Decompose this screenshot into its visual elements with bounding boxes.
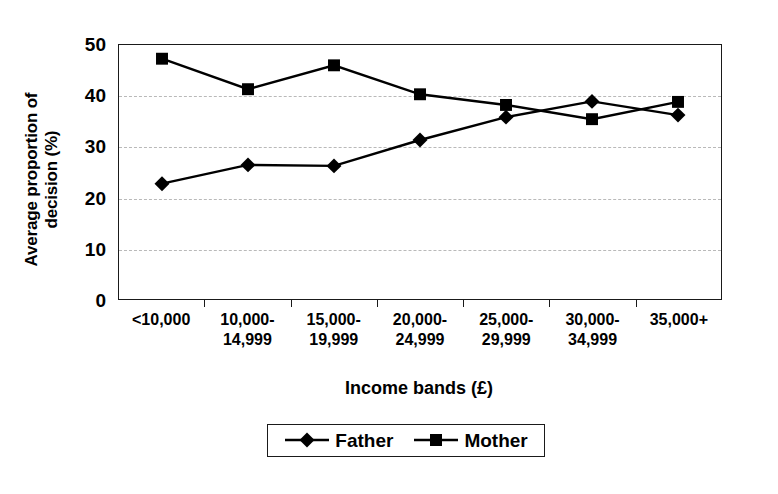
y-axis-tick-labels: 01020304050 — [62, 0, 106, 494]
y-axis-title: Average proportion of decision (%) — [22, 50, 61, 310]
data-point-marker — [413, 133, 428, 148]
data-point-marker — [241, 157, 256, 172]
legend-swatch-square-icon — [413, 430, 459, 450]
y-axis-tick-label: 20 — [68, 189, 106, 208]
y-axis-tick-label: 40 — [68, 86, 106, 105]
x-axis-title: Income bands (£) — [0, 378, 778, 399]
series-father — [155, 94, 686, 191]
chart-canvas: Average proportion of decision (%) 01020… — [0, 0, 778, 494]
data-point-marker — [327, 158, 342, 173]
legend-box: FatherMother — [267, 424, 544, 457]
series-layer — [119, 45, 721, 299]
legend-swatch-diamond-icon — [284, 430, 330, 450]
legend-item-mother[interactable]: Mother — [413, 430, 527, 450]
legend-label: Father — [335, 431, 393, 450]
y-axis-title-line-1: Average proportion of — [22, 50, 42, 310]
data-point-marker — [242, 83, 254, 95]
x-axis-category-label: 35,000+ — [624, 310, 734, 330]
data-point-marker — [499, 110, 514, 125]
x-axis-tick-mark — [463, 300, 464, 307]
data-point-marker — [500, 99, 512, 111]
y-axis-tick-label: 30 — [68, 137, 106, 156]
data-point-marker — [585, 94, 600, 109]
series-mother — [156, 53, 684, 125]
legend: FatherMother — [0, 424, 778, 457]
y-axis-tick-label: 50 — [68, 35, 106, 54]
x-axis-tick-mark — [204, 300, 205, 307]
data-point-marker — [414, 88, 426, 100]
legend-item-father[interactable]: Father — [284, 430, 393, 450]
data-point-marker — [586, 113, 598, 125]
x-axis-tick-labels: <10,00010,000-14,99915,000-19,99920,000-… — [118, 310, 722, 370]
x-axis-category-label-line: 34,999 — [538, 330, 648, 350]
x-axis-category-label-line: 35,000+ — [624, 310, 734, 330]
y-axis-title-line-2: decision (%) — [42, 50, 62, 310]
data-point-marker — [155, 176, 170, 191]
data-point-marker — [671, 108, 686, 123]
data-point-marker — [328, 59, 340, 71]
y-axis-tick-label: 10 — [68, 240, 106, 259]
y-axis-tick-label: 0 — [68, 291, 106, 310]
x-axis-tick-mark — [291, 300, 292, 307]
x-axis-tick-mark — [377, 300, 378, 307]
data-point-marker — [672, 96, 684, 108]
x-axis-tick-mark — [636, 300, 637, 307]
data-point-marker — [156, 53, 168, 65]
legend-label: Mother — [464, 431, 527, 450]
x-axis-tick-mark — [549, 300, 550, 307]
plot-area — [118, 44, 722, 300]
